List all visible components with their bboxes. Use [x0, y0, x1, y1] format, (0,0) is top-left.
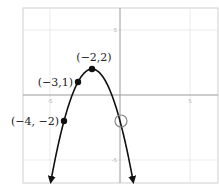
y-tick-label: -5 — [112, 157, 117, 163]
x-tick-label: 5 — [188, 98, 191, 104]
filled-point — [75, 79, 81, 85]
point-label: (−2,2) — [76, 51, 111, 64]
point-label: (−3,1) — [38, 76, 73, 89]
parabola-graph: -555-5 (−2,2)(−3,1)(−4, −2) — [0, 0, 219, 187]
point-label: (−4, −2) — [11, 115, 59, 128]
filled-point — [61, 118, 67, 124]
y-tick-label: 5 — [114, 27, 117, 33]
x-tick-label: -5 — [48, 98, 53, 104]
filled-point — [89, 66, 95, 72]
